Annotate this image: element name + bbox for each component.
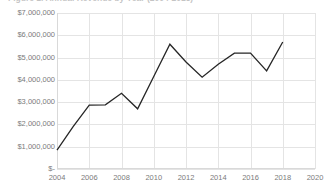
data-line-revenue [57, 42, 283, 150]
gridline-horizontal [57, 169, 315, 170]
y-axis-tick-label: $5,000,000 [1, 54, 55, 62]
x-axis-tick-label: 2020 [295, 174, 324, 182]
y-axis-tick-label: $2,000,000 [1, 120, 55, 128]
y-axis: $-$1,000,000$2,000,000$3,000,000$4,000,0… [0, 13, 55, 169]
y-axis-tick-label: $6,000,000 [1, 31, 55, 39]
gridline-vertical [315, 13, 316, 169]
y-axis-tick-label: $4,000,000 [1, 76, 55, 84]
y-axis-tick-label: $3,000,000 [1, 98, 55, 106]
y-axis-tick-label: $- [1, 165, 55, 173]
y-axis-tick-label: $1,000,000 [1, 143, 55, 151]
line-chart: Figure 1. Annual Revenue by Year (2004-2… [0, 0, 324, 194]
plot-area [57, 13, 315, 169]
x-axis: 200420062008201020122014201620182020 [57, 174, 315, 186]
chart-title: Figure 1. Annual Revenue by Year (2004-2… [8, 0, 324, 5]
series-layer [57, 13, 315, 169]
y-axis-tick-label: $7,000,000 [1, 9, 55, 17]
